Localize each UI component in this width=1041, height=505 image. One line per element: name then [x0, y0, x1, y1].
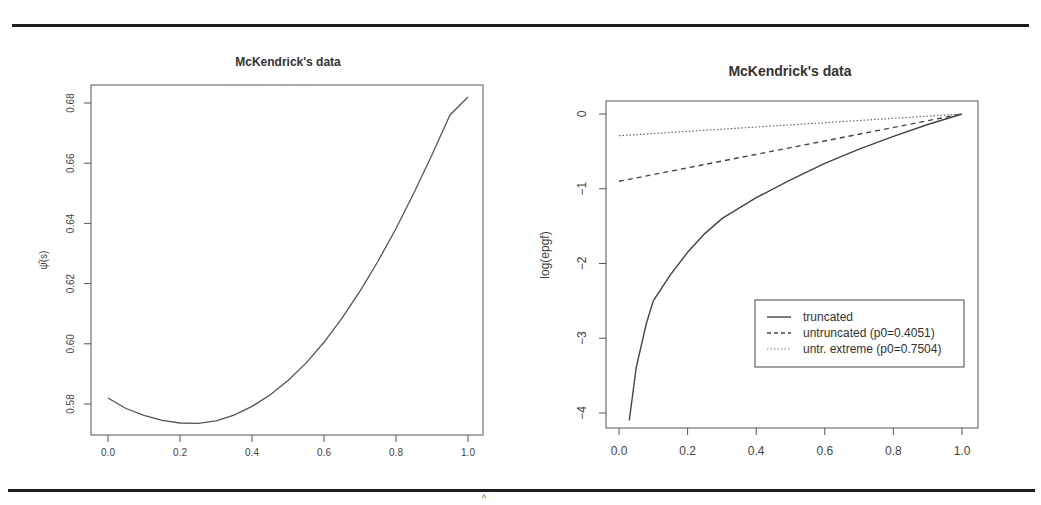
x-tick-label: 0.8: [885, 444, 902, 458]
right-chart: McKendrick's data −4−3−2−10 0.00.20.40.6…: [538, 63, 978, 458]
x-tick-label: 0.2: [679, 444, 696, 458]
right-y-axis: −4−3−2−10: [575, 110, 606, 420]
x-tick-label: 0.6: [317, 447, 331, 458]
left-series-psi-hat: [108, 97, 468, 423]
left-y-axis-label: ψ̂(s): [38, 251, 49, 270]
y-tick-label: 0.58: [65, 394, 76, 414]
left-chart: McKendrick's data 0.580.600.620.640.660.…: [38, 55, 483, 458]
right-series-untr-extreme: [619, 114, 962, 136]
x-tick-label: 1.0: [461, 447, 475, 458]
legend: truncated untruncated (p0=0.4051) untr. …: [755, 300, 964, 367]
y-tick-label: −2: [575, 256, 589, 270]
left-plot-frame: [91, 85, 483, 435]
right-y-axis-label: log(epgf): [538, 231, 552, 278]
y-tick-label: −3: [575, 331, 589, 345]
right-chart-title: McKendrick's data: [728, 63, 851, 79]
y-tick-label: −4: [575, 406, 589, 420]
x-tick-label: 0.0: [101, 447, 115, 458]
y-tick-label: 0.60: [65, 334, 76, 354]
y-tick-label: 0.64: [65, 213, 76, 233]
y-tick-label: 0: [575, 110, 589, 117]
right-series-truncated: [629, 114, 962, 421]
x-tick-label: 1.0: [954, 444, 971, 458]
y-tick-label: 0.62: [65, 273, 76, 293]
right-series-untruncated: [619, 114, 962, 181]
y-tick-label: 0.66: [65, 153, 76, 173]
x-tick-label: 0.8: [389, 447, 403, 458]
right-plot-frame: [606, 101, 978, 428]
x-tick-label: 0.0: [611, 444, 628, 458]
figure: McKendrick's data 0.580.600.620.640.660.…: [0, 0, 1041, 505]
left-chart-title: McKendrick's data: [235, 55, 341, 69]
x-tick-label: 0.2: [173, 447, 187, 458]
left-y-axis: 0.580.600.620.640.660.68: [65, 93, 91, 414]
x-tick-label: 0.4: [748, 444, 765, 458]
left-x-axis: 0.00.20.40.60.81.0: [101, 435, 475, 458]
legend-label-untruncated: untruncated (p0=0.4051): [803, 326, 935, 340]
x-tick-label: 0.4: [245, 447, 259, 458]
y-tick-label: 0.68: [65, 93, 76, 113]
legend-label-untr-extreme: untr. extreme (p0=0.7504): [803, 342, 941, 356]
x-tick-label: 0.6: [816, 444, 833, 458]
legend-label-truncated: truncated: [803, 310, 853, 324]
right-x-axis: 0.00.20.40.60.81.0: [611, 428, 971, 458]
y-tick-label: −1: [575, 182, 589, 196]
